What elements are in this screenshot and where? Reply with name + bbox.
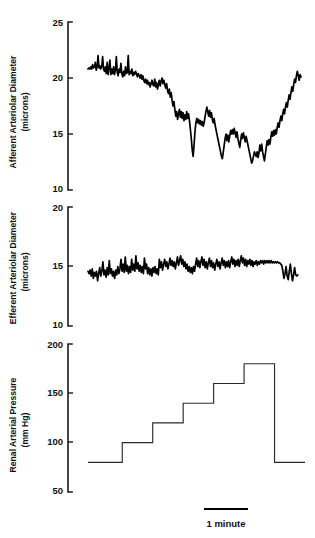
panel3-pressure-step-trace bbox=[88, 364, 305, 463]
panel1-ticklabel-25: 25 bbox=[52, 17, 63, 28]
panel2-axis-units: (microns) bbox=[20, 252, 30, 291]
panel3-ticklabel-150: 150 bbox=[47, 387, 63, 398]
panel1-ticklabel-15: 15 bbox=[52, 128, 63, 139]
panel1-ticklabel-20: 20 bbox=[52, 72, 63, 83]
panel1-data-trace bbox=[88, 56, 301, 164]
panel2-data-trace bbox=[88, 256, 298, 281]
panel1-y-axis bbox=[68, 22, 72, 190]
panel3-ticklabel-200: 200 bbox=[47, 339, 63, 350]
panel1-ticklabel-10: 10 bbox=[52, 183, 63, 194]
time-scale-bar-label: 1 minute bbox=[206, 518, 245, 529]
panel3-axis-title: Renal Arterial Pressure bbox=[8, 377, 18, 472]
panel2-ticklabel-20: 20 bbox=[52, 202, 63, 213]
panel3-y-axis bbox=[68, 344, 72, 492]
panel1-axis-units: (microns) bbox=[20, 92, 30, 131]
panel3-ticklabel-100: 100 bbox=[47, 436, 63, 447]
figure-container: Afferent Arteriolar Diameter (microns) 2… bbox=[0, 0, 315, 538]
panel1-axis-title: Afferent Arteriolar Diameter bbox=[8, 55, 18, 169]
panel-afferent-arteriolar-diameter: Afferent Arteriolar Diameter (microns) 2… bbox=[8, 17, 301, 194]
panel3-ticklabel-50: 50 bbox=[52, 485, 63, 496]
panel-efferent-arteriolar-diameter: Efferent Arteriolar Diameter (microns) 2… bbox=[8, 202, 298, 330]
panel-renal-arterial-pressure: Renal Arterial Pressure (mm Hg) 200 150 … bbox=[8, 339, 305, 496]
time-scale-bar-group: 1 minute bbox=[204, 509, 248, 529]
panel3-axis-units: (mm Hg) bbox=[20, 412, 30, 447]
multi-panel-recording-figure: Afferent Arteriolar Diameter (microns) 2… bbox=[0, 0, 315, 538]
panel2-axis-title: Efferent Arteriolar Diameter bbox=[8, 211, 18, 324]
panel2-ticklabel-15: 15 bbox=[52, 260, 63, 271]
panel2-ticklabel-10: 10 bbox=[52, 319, 63, 330]
